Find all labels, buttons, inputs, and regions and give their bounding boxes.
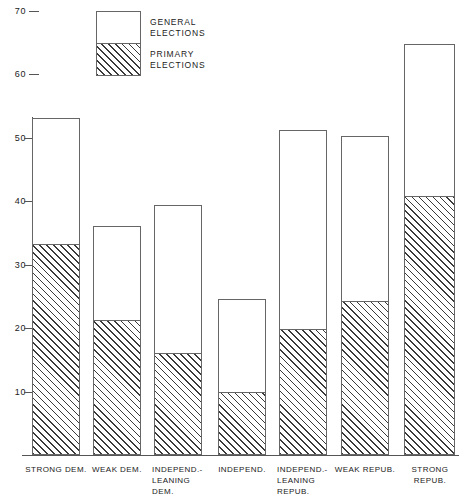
y-tick-mark-70 (29, 11, 39, 12)
x-axis-label-independent-leaning-repub: INDEPEND.- LEANING REPUB. (271, 464, 335, 497)
x-axis-label-weak-dem: WEAK DEM. (86, 464, 148, 475)
legend-swatch-general (96, 11, 141, 44)
y-tick-label-40: 40 (6, 197, 26, 206)
legend-label-general: GENERAL ELECTIONS (150, 17, 240, 39)
y-tick-mark-60 (29, 74, 39, 75)
x-axis-label-strong-repub: STRONG REPUB. (396, 464, 464, 486)
y-tick-label-50: 50 (6, 134, 26, 143)
bar-primary-independent-leaning-repub (279, 329, 327, 455)
bar-primary-strong-repub (404, 196, 455, 455)
bar-primary-independent-leaning-dem (154, 353, 202, 455)
x-axis-label-weak-repub: WEAK REPUB. (334, 464, 396, 475)
y-tick-label-20: 20 (6, 324, 26, 333)
bar-primary-weak-repub (341, 301, 389, 455)
x-axis-label-strong-dem: STRONG DEM. (24, 464, 88, 475)
y-tick-label-70: 70 (6, 7, 26, 16)
bar-primary-strong-dem (32, 244, 80, 455)
y-tick-label-10: 10 (6, 388, 26, 397)
legend-swatch-primary (96, 43, 141, 76)
x-axis-label-independent: INDEPEND. (210, 464, 274, 475)
x-axis-line (22, 455, 459, 456)
x-axis-label-independent-leaning-dem: INDEPEND.- LEANING DEM. (146, 464, 210, 497)
legend-label-primary: PRIMARY ELECTIONS (150, 49, 240, 71)
chart-canvas: 70 60 50 40 30 20 10 GENERAL ELECTIONS P… (0, 0, 470, 503)
bar-primary-weak-dem (93, 320, 141, 455)
y-tick-label-60: 60 (6, 70, 26, 79)
bar-primary-independent (218, 392, 266, 455)
y-tick-label-30: 30 (6, 261, 26, 270)
